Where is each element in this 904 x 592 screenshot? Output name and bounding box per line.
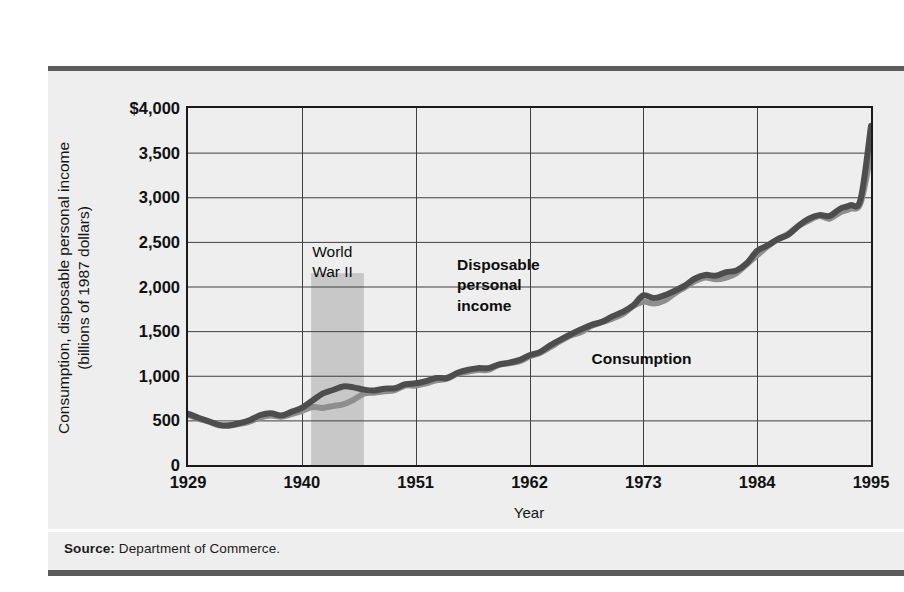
y-axis-title-line2: (billions of 1987 dollars) [74,113,94,463]
y-tick-label: 500 [152,411,180,430]
y-axis-title-line1: Consumption, disposable personal income [54,113,74,463]
figure-bottom-rule [48,570,904,576]
y-tick-label: 2,000 [139,277,180,296]
x-tick-label: 1962 [511,473,548,492]
annotation-line: War II [312,262,353,282]
x-axis-title: Year [514,504,544,521]
x-tick-label: 1951 [397,473,434,492]
source-separator [48,529,904,532]
y-tick-label: 3,500 [139,143,180,162]
annotation-line: World [312,242,353,262]
x-tick-label: 1973 [625,473,662,492]
source-note: Source: Department of Commerce. [64,541,280,556]
annotation-disposable-personal-income: Disposablepersonalincome [457,255,540,315]
x-tick-label: 1940 [283,473,320,492]
annotation-line: Disposable [457,255,540,275]
y-tick-label: 0 [171,456,180,475]
x-tick-label: 1984 [739,473,776,492]
annotation-consumption: Consumption [592,349,692,369]
y-tick-label: $4,000 [130,99,180,118]
chart-figure: Consumption, disposable personal income … [24,33,880,261]
y-tick-label: 1,500 [139,322,180,341]
x-tick-label: 1929 [170,473,207,492]
y-tick-label: 3,000 [139,188,180,207]
y-axis-tick-labels: $4,0003,5003,0002,5002,0001,5001,0005000 [96,106,180,467]
y-tick-label: 2,500 [139,232,180,251]
y-tick-label: 1,000 [139,366,180,385]
annotation-line: income [457,296,540,316]
annotation-line: personal [457,275,540,295]
source-label: Source: [64,541,115,556]
x-tick-label: 1995 [853,473,890,492]
figure-top-rule [48,66,904,71]
y-axis-title: Consumption, disposable personal income … [52,113,96,463]
world-war-ii-band [311,273,364,465]
annotation-world-war-ii: WorldWar II [312,242,353,282]
source-text: Department of Commerce. [119,541,280,556]
